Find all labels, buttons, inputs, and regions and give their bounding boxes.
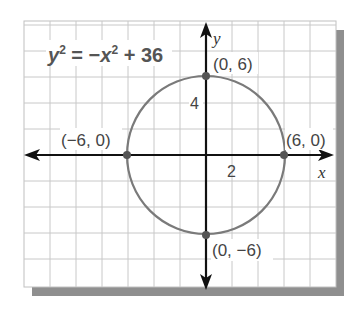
y-axis-label: y	[211, 29, 221, 48]
graph-shadow-bottom	[32, 287, 344, 296]
point-label-6-0: (6, 0)	[286, 131, 326, 150]
circle-graph: y2 = −x2 + 36 y x 4 2 (0, 6) (−6, 0) (6,…	[0, 0, 362, 321]
graph-shadow-right	[336, 30, 344, 296]
point-label-0-neg6: (0, −6)	[212, 241, 262, 260]
x-axis-label: x	[317, 163, 326, 182]
point-0-neg6	[202, 231, 210, 239]
y-tick-label: 4	[190, 95, 199, 112]
point-neg6-0	[123, 151, 131, 159]
x-tick-label: 2	[227, 163, 236, 180]
point-label-0-6: (0, 6)	[213, 55, 253, 74]
point-6-0	[280, 151, 288, 159]
point-0-6	[202, 72, 210, 80]
point-label-neg6-0: (−6, 0)	[61, 131, 111, 150]
